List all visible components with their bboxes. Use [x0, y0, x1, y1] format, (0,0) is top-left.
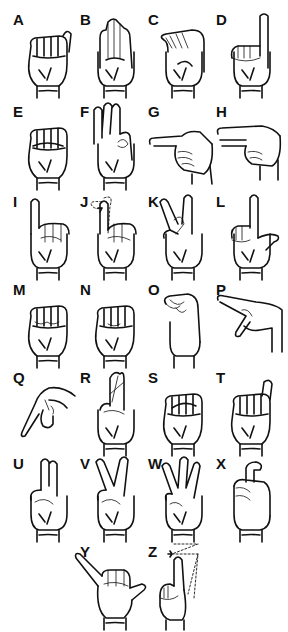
hand-y-icon [80, 544, 150, 632]
hand-m-icon [13, 282, 83, 370]
hand-d-icon [216, 12, 286, 100]
hand-r-icon [80, 370, 150, 458]
sign-e: E [13, 104, 83, 192]
hand-z-icon [148, 544, 218, 632]
sign-y: Y [80, 544, 150, 632]
sign-v: V [80, 456, 150, 544]
sign-k: K [148, 194, 218, 282]
hand-s-icon [148, 370, 218, 458]
hand-b-icon [80, 12, 150, 100]
sign-h: H [216, 104, 286, 192]
hand-v-icon [80, 456, 150, 544]
hand-f-icon [80, 104, 150, 192]
sign-d: D [216, 12, 286, 100]
sign-m: M [13, 282, 83, 370]
hand-p-icon [216, 282, 286, 370]
hand-l-icon [216, 194, 286, 282]
hand-g-icon [148, 104, 218, 192]
hand-i-icon [13, 194, 83, 282]
sign-t: T [216, 370, 286, 458]
sign-b: B [80, 12, 150, 100]
sign-s: S [148, 370, 218, 458]
sign-z: Z [148, 544, 218, 632]
hand-j-icon [80, 194, 150, 282]
hand-a-icon [13, 12, 83, 100]
sign-n: N [80, 282, 150, 370]
hand-k-icon [148, 194, 218, 282]
sign-o: O [148, 282, 218, 370]
sign-f: F [80, 104, 150, 192]
hand-h-icon [216, 104, 286, 192]
sign-w: W [148, 456, 218, 544]
hand-n-icon [80, 282, 150, 370]
hand-w-icon [148, 456, 218, 544]
asl-alphabet-chart: A B C D E [0, 0, 288, 632]
sign-c: C [148, 12, 218, 100]
hand-u-icon [13, 456, 83, 544]
sign-r: R [80, 370, 150, 458]
hand-x-icon [216, 456, 286, 544]
hand-e-icon [13, 104, 83, 192]
sign-p: P [216, 282, 286, 370]
sign-j: J [80, 194, 150, 282]
sign-g: G [148, 104, 218, 192]
sign-x: X [216, 456, 286, 544]
hand-c-icon [148, 12, 218, 100]
sign-u: U [13, 456, 83, 544]
sign-i: I [13, 194, 83, 282]
hand-t-icon [216, 370, 286, 458]
sign-a: A [13, 12, 83, 100]
hand-o-icon [148, 282, 218, 370]
sign-q: Q [13, 370, 83, 458]
sign-l: L [216, 194, 286, 282]
hand-q-icon [13, 370, 83, 458]
